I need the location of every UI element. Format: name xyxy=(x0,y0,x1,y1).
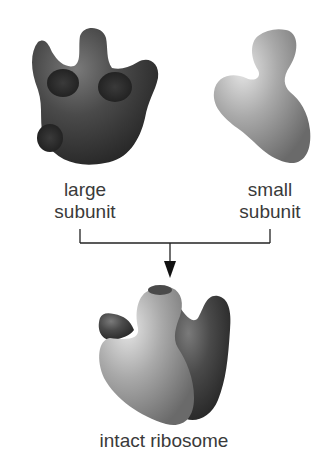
large-subunit-shape xyxy=(32,28,158,165)
small-subunit-label: small subunit xyxy=(225,179,315,223)
large-subunit-label-line1: large xyxy=(40,179,130,201)
small-subunit-label-line1: small xyxy=(225,179,315,201)
small-subunit-shape xyxy=(214,29,311,163)
assembly-connector xyxy=(80,229,270,262)
intact-ribosome-label: intact ribosome xyxy=(64,430,264,452)
large-subunit-label: large subunit xyxy=(40,179,130,223)
large-subunit-label-line2: subunit xyxy=(40,201,130,223)
diagram-canvas xyxy=(0,0,328,469)
small-subunit-label-line2: subunit xyxy=(225,201,315,223)
arrow-down-icon xyxy=(164,261,176,278)
intact-ribosome-shape xyxy=(99,285,231,425)
